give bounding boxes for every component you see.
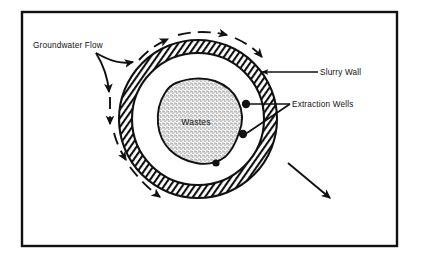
groundwater-flow-label: Groundwater Flow xyxy=(33,41,103,50)
extraction-well-dot xyxy=(212,159,219,166)
extraction-well-dot xyxy=(239,130,247,138)
figure-canvas: Wastes Grou xyxy=(0,0,421,268)
extraction-wells-label: Extraction Wells xyxy=(292,100,353,109)
wastes-label: Wastes xyxy=(181,117,211,127)
extraction-well-dot xyxy=(242,100,250,108)
containment-diagram: Wastes Grou xyxy=(0,0,421,268)
slurry-wall-label: Slurry Wall xyxy=(320,68,361,77)
